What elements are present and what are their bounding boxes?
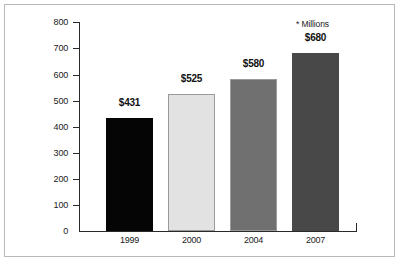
y-tick-300: [73, 153, 79, 154]
y-tick-700: [73, 48, 79, 49]
y-tick-800: [73, 22, 79, 23]
bar-2004: [230, 79, 277, 231]
bar-value-2007: $680: [292, 33, 339, 43]
category-label-2004: 2004: [230, 236, 277, 245]
chart-screenshot: 800 700 600 500 400 300 200 100 0 $431 1…: [0, 0, 400, 263]
bar-2007: [292, 53, 339, 231]
y-tick-600: [73, 75, 79, 76]
y-axis-line: [79, 22, 80, 232]
x-axis-end-tick: [356, 223, 357, 232]
y-tick-500: [73, 101, 79, 102]
x-axis-line: [79, 231, 357, 232]
y-tick-label-100: 100: [28, 201, 68, 210]
bar-1999: [106, 118, 153, 231]
units-note: * Millions: [296, 20, 329, 29]
y-tick-label-0: 0: [28, 227, 68, 236]
category-label-2000: 2000: [168, 236, 215, 245]
y-tick-label-300: 300: [28, 149, 68, 158]
y-tick-200: [73, 179, 79, 180]
category-label-1999: 1999: [106, 236, 153, 245]
y-tick-100: [73, 205, 79, 206]
bar-value-1999: $431: [106, 98, 153, 108]
y-tick-label-800: 800: [28, 18, 68, 27]
bar-2000: [168, 94, 215, 231]
y-tick-label-400: 400: [28, 123, 68, 132]
category-label-2007: 2007: [292, 236, 339, 245]
y-tick-label-700: 700: [28, 44, 68, 53]
y-tick-label-200: 200: [28, 175, 68, 184]
y-tick-label-500: 500: [28, 97, 68, 106]
bar-value-2004: $580: [230, 59, 277, 69]
plot-area: 800 700 600 500 400 300 200 100 0 $431 1…: [0, 0, 400, 263]
bar-value-2000: $525: [168, 74, 215, 84]
y-tick-label-600: 600: [28, 71, 68, 80]
y-tick-400: [73, 127, 79, 128]
